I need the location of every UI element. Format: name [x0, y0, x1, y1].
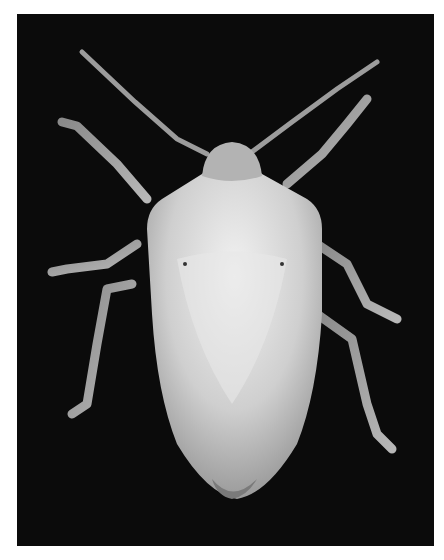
insect-photo [17, 14, 434, 546]
stink-bug-illustration [17, 14, 434, 546]
bug-body [147, 142, 322, 499]
